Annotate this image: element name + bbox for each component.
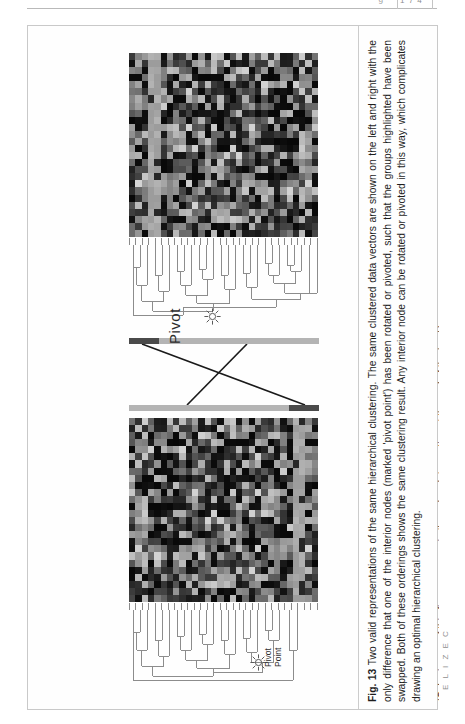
tick-mark: [271, 238, 272, 245]
tick-mark: [252, 603, 253, 610]
tick-mark: [252, 238, 253, 245]
tick-mark: [310, 238, 311, 245]
heatmap-cell: [312, 195, 318, 202]
heatmap-cell: [312, 460, 318, 467]
heatmap-cell: [312, 503, 318, 510]
tick-mark: [317, 603, 318, 610]
figure-label: Fig. 13: [367, 669, 378, 702]
heatmap-cell: [312, 574, 318, 581]
dendrogram-top: [129, 245, 324, 319]
heatmap-cell: [312, 560, 318, 567]
page-header-strip: 9 1 7 4: [27, 0, 437, 9]
tick-mark: [155, 238, 156, 245]
heatmap-cell: [312, 74, 318, 81]
tick-mark: [239, 603, 240, 610]
tick-mark: [129, 238, 130, 245]
tick-mark: [194, 238, 195, 245]
page-folio: 1 7 4: [400, 0, 423, 5]
tick-mark: [271, 603, 272, 610]
tick-mark: [213, 238, 214, 245]
tick-mark: [278, 603, 279, 610]
heatmap-cell: [312, 117, 318, 124]
caption-body: Fig. 13 Two valid representations of the…: [366, 40, 424, 702]
heatmap-cell: [312, 538, 318, 545]
pivot-point-label: Pivot Point: [264, 648, 283, 667]
tick-mark: [168, 238, 169, 245]
tick-mark: [304, 603, 305, 610]
heatmap-cell: [312, 110, 318, 117]
tick-mark: [239, 238, 240, 245]
heatmap-cell: [312, 453, 318, 460]
tick-mark: [213, 603, 214, 610]
tick-mark: [226, 238, 227, 245]
pivot-label: Pivot: [166, 254, 183, 344]
tick-mark: [181, 238, 182, 245]
tick-mark: [142, 238, 143, 245]
dendrogram-bottom: [129, 610, 324, 684]
tick-row-top: [129, 238, 318, 245]
heatmap-cell: [312, 202, 318, 209]
heatmap-cell: [312, 517, 318, 524]
heatmap-cell: [312, 131, 318, 138]
tick-mark: [148, 238, 149, 245]
heatmap-cell: [312, 67, 318, 74]
heatmap-cell: [312, 595, 318, 602]
tick-mark: [284, 238, 285, 245]
tick-mark: [258, 603, 259, 610]
heatmap-cell: [312, 468, 318, 475]
tick-mark: [161, 238, 162, 245]
heatmap-cell: [312, 482, 318, 489]
heatmap-cell: [312, 223, 318, 230]
tick-mark: [187, 238, 188, 245]
figure-region: Pivot Pivot Point: [28, 26, 358, 709]
tick-mark: [233, 238, 234, 245]
heatmap-cell: [312, 209, 318, 216]
tick-mark: [129, 603, 130, 610]
tick-mark: [297, 603, 298, 610]
heatmap-cell: [312, 216, 318, 223]
caption-text: Two valid representations of the same hi…: [367, 40, 422, 702]
heatmap-cell: [312, 60, 318, 67]
tick-mark: [265, 238, 266, 245]
heatmap-cell: [312, 159, 318, 166]
heatmap-cell: [312, 180, 318, 187]
tick-mark: [284, 603, 285, 610]
tick-mark: [291, 238, 292, 245]
heatmap-cell: [312, 524, 318, 531]
heatmap-cell: [312, 95, 318, 102]
heatmap-cell: [312, 53, 318, 60]
heatmap-cell: [312, 173, 318, 180]
heatmap-cell: [312, 230, 318, 237]
tick-mark: [168, 603, 169, 610]
scan-edge-fragment: E L I Z E C: [441, 570, 450, 690]
tick-mark: [297, 238, 298, 245]
group-bar-bottom: [129, 405, 319, 411]
tick-mark: [317, 238, 318, 245]
tick-mark: [220, 238, 221, 245]
tick-mark: [304, 238, 305, 245]
heatmap-cell: [312, 496, 318, 503]
tick-mark: [200, 603, 201, 610]
tick-mark: [245, 238, 246, 245]
tick-mark: [233, 603, 234, 610]
heatmap-cell: [312, 187, 318, 194]
tick-row-bottom: [129, 603, 318, 610]
heatmap-cell: [312, 545, 318, 552]
heatmap-cell: [312, 581, 318, 588]
tick-mark: [174, 603, 175, 610]
tick-mark: [200, 238, 201, 245]
heatmap-cell: [312, 439, 318, 446]
tick-mark: [265, 603, 266, 610]
tick-mark: [310, 603, 311, 610]
figure-caption-column: Fig. 13 Two valid representations of the…: [358, 26, 439, 709]
heatmap-bottom: [129, 418, 318, 602]
tick-mark: [142, 603, 143, 610]
heatmap-cell: [312, 124, 318, 131]
heatmap-cell: [312, 152, 318, 159]
heatmap-top: [129, 53, 318, 237]
pivot-starburst-icon-top: [204, 308, 221, 325]
group-bar-segment: [129, 405, 289, 411]
group-bar-segment: [289, 405, 319, 411]
heatmap-cell: [312, 475, 318, 482]
tick-mark: [258, 238, 259, 245]
